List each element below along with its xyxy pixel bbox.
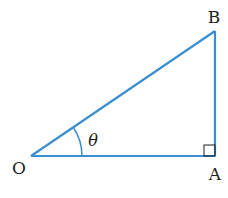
angle-arc (73, 127, 82, 156)
vertex-label-a: A (208, 164, 222, 184)
angle-label-theta: θ (88, 131, 98, 150)
side-ob (31, 31, 215, 156)
vertex-label-o: O (12, 158, 26, 178)
triangle-diagram: B O A θ (0, 0, 228, 198)
vertex-label-b: B (208, 7, 221, 27)
right-angle-marker (204, 145, 215, 156)
